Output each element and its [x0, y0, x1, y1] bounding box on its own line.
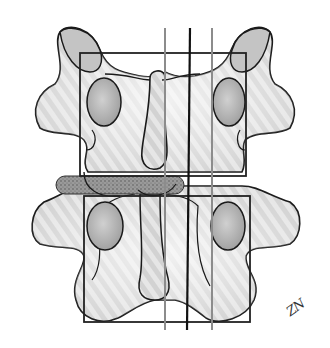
pedicle-lower-left	[87, 202, 123, 250]
pedicle-upper-right	[213, 78, 245, 126]
pedicle-lower-right	[211, 202, 245, 250]
vertebrae-diagram	[0, 0, 330, 348]
pedicle-upper-left	[87, 78, 121, 126]
